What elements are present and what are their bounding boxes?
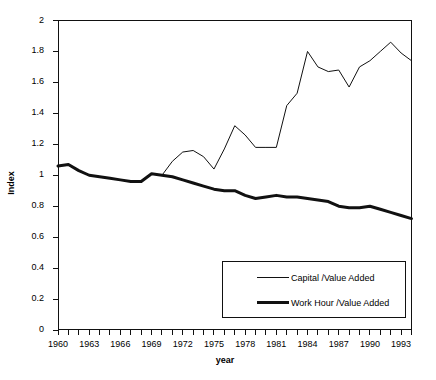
legend-swatch-capital (257, 277, 289, 278)
x-tick-mark (99, 330, 100, 335)
y-tick-label: 1.8 (10, 46, 44, 55)
y-tick-label: 1 (10, 170, 44, 179)
legend-label-capital: Capital /Value Added (291, 271, 374, 285)
legend-label-work-hour: Work Hour /Value Added (291, 296, 389, 310)
x-tick-mark (78, 330, 79, 335)
y-tick-mark (53, 237, 59, 238)
x-tick-label: 1993 (381, 339, 421, 349)
legend-swatch-work-hour (257, 301, 289, 304)
y-tick-label: 1.6 (10, 77, 44, 86)
y-tick-label: 0 (10, 325, 44, 334)
y-tick-mark (53, 20, 59, 21)
y-tick-mark (53, 175, 59, 176)
x-tick-mark (182, 330, 183, 335)
x-tick-mark (265, 330, 266, 335)
x-tick-mark (120, 330, 121, 335)
y-tick-mark (53, 144, 59, 145)
y-tick-mark (53, 82, 59, 83)
x-tick-mark (161, 330, 162, 335)
y-tick-mark (53, 113, 59, 114)
y-tick-mark (53, 206, 59, 207)
x-tick-mark (203, 330, 204, 335)
x-tick-mark (213, 330, 214, 335)
legend-entry: Work Hour /Value Added (223, 295, 407, 311)
x-tick-mark (286, 330, 287, 335)
legend: Capital /Value Added Work Hour /Value Ad… (222, 261, 406, 318)
x-tick-mark (255, 330, 256, 335)
x-tick-mark (307, 330, 308, 335)
x-tick-mark (411, 330, 412, 335)
x-tick-mark (234, 330, 235, 335)
x-tick-mark (349, 330, 350, 335)
x-tick-mark (401, 330, 402, 335)
x-tick-mark (58, 330, 59, 335)
x-tick-mark (380, 330, 381, 335)
y-tick-label: 0.2 (10, 294, 44, 303)
x-tick-mark (193, 330, 194, 335)
x-tick-mark (151, 330, 152, 335)
x-tick-mark (172, 330, 173, 335)
x-tick-mark (245, 330, 246, 335)
plot-frame-right (411, 20, 412, 330)
y-tick-label: 1.4 (10, 108, 44, 117)
y-tick-mark (53, 268, 59, 269)
x-tick-mark (359, 330, 360, 335)
x-tick-mark (328, 330, 329, 335)
x-tick-mark (130, 330, 131, 335)
y-tick-label: 0.4 (10, 263, 44, 272)
x-tick-mark (68, 330, 69, 335)
x-tick-mark (141, 330, 142, 335)
x-tick-mark (89, 330, 90, 335)
y-axis-title: Index (6, 160, 16, 206)
x-tick-mark (109, 330, 110, 335)
x-tick-mark (224, 330, 225, 335)
y-tick-label: 1.2 (10, 139, 44, 148)
line-chart: Index 21.81.61.41.210.80.60.40.20 196019… (0, 0, 436, 380)
y-tick-label: 0.6 (10, 232, 44, 241)
y-tick-label: 0.8 (10, 201, 44, 210)
x-tick-mark (317, 330, 318, 335)
legend-entry: Capital /Value Added (223, 270, 407, 286)
x-tick-mark (338, 330, 339, 335)
y-tick-mark (53, 299, 59, 300)
x-axis-title: year (195, 355, 255, 365)
x-tick-mark (297, 330, 298, 335)
plot-frame-top (58, 20, 412, 21)
x-tick-mark (369, 330, 370, 335)
y-tick-mark (53, 51, 59, 52)
x-tick-mark (390, 330, 391, 335)
x-tick-mark (276, 330, 277, 335)
y-tick-label: 2 (10, 16, 44, 25)
